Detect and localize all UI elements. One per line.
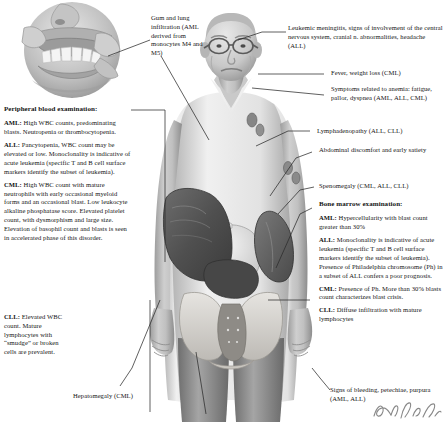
callout-hepatomegaly-text: Hepatomegaly (CML) <box>73 392 163 401</box>
callout-gum-lung-text: Gum and lung infiltration (AML derived f… <box>151 14 213 58</box>
artist-signature <box>371 400 443 422</box>
marrow-cll-text: Diffuse infiltration with mature lymphoc… <box>319 306 422 322</box>
callout-splenomegaly: Spenomegaly (CML, ALL, CLL) <box>319 182 445 191</box>
peripheral-blood-panel: Peripheral blood examination: AML: High … <box>4 105 131 243</box>
callout-abdominal-text: Abdominal discomfort and early satiety <box>319 146 439 155</box>
peripheral-all-text: Pancytopenia, WBC count may be elevated … <box>4 141 130 174</box>
central-figure-illustration <box>148 8 314 423</box>
callout-splenomegaly-text: Spenomegaly (CML, ALL, CLL) <box>319 182 445 191</box>
callout-lymphadenopathy-text: Lymphadenopathy (ALL, CLL) <box>317 127 443 136</box>
callout-gum-lung: Gum and lung infiltration (AML derived f… <box>151 14 213 58</box>
peripheral-blood-entry-cll: CLL: Elevated WBC count. Mature lymphocy… <box>4 313 66 357</box>
callout-meningitis: Leukemic meningitis, signs of involvemen… <box>288 24 444 50</box>
callout-hepatomegaly: Hepatomegaly (CML) <box>73 392 163 401</box>
peripheral-blood-heading: Peripheral blood examination: <box>4 105 131 114</box>
callout-meningitis-text: Leukemic meningitis, signs of involvemen… <box>288 24 444 50</box>
marrow-aml-label: AML: <box>319 214 337 221</box>
peripheral-blood-entry-cml: CML: High WBC count with mature neutroph… <box>4 181 131 243</box>
callout-anemia: Symptoms related to anemia: fatigue, pal… <box>331 85 441 103</box>
bone-marrow-heading: Bone marrow examination: <box>319 200 444 209</box>
leukemia-manifestations-figure: Gum and lung infiltration (AML derived f… <box>0 0 447 423</box>
peripheral-aml-label: AML: <box>4 119 22 126</box>
callout-abdominal-discomfort: Abdominal discomfort and early satiety <box>319 146 439 155</box>
peripheral-cml-label: CML: <box>4 181 22 188</box>
marrow-cml-label: CML: <box>319 285 337 292</box>
bone-marrow-entry-cll: CLL: Diffuse infiltration with mature ly… <box>319 306 444 324</box>
marrow-cll-label: CLL: <box>319 306 335 313</box>
callout-anemia-text: Symptoms related to anemia: fatigue, pal… <box>331 85 441 103</box>
peripheral-blood-entry-cll-block: CLL: Elevated WBC count. Mature lymphocy… <box>4 313 66 357</box>
callout-lymphadenopathy: Lymphadenopathy (ALL, CLL) <box>317 127 443 136</box>
callout-fever-text: Fever, weight loss (CML) <box>331 69 443 78</box>
bone-marrow-panel: Bone marrow examination: AML: Hypercellu… <box>319 200 444 324</box>
bone-marrow-entry-all: ALL: Monoclonality is indicative of acut… <box>319 236 444 280</box>
marrow-all-text: Monoclonality is indicative of acute leu… <box>319 236 443 278</box>
peripheral-cll-label: CLL: <box>4 313 20 320</box>
leader-bleeding <box>312 368 330 390</box>
marrow-all-label: ALL: <box>319 236 335 243</box>
peripheral-all-label: ALL: <box>4 141 20 148</box>
peripheral-blood-entry-aml: AML: High WBC counts, predominating blas… <box>4 119 131 137</box>
bone-marrow-entry-cml: CML: Presence of Ph. More than 30% blast… <box>319 285 444 303</box>
marrow-cml-text: Presence of Ph. More than 30% blasts cou… <box>319 285 441 301</box>
gum-infiltration-inset-illustration <box>16 2 128 98</box>
peripheral-blood-entry-all: ALL: Pancytopenia, WBC count may be elev… <box>4 141 131 176</box>
callout-fever: Fever, weight loss (CML) <box>331 69 443 78</box>
peripheral-cml-text: High WBC count with mature neutrophils w… <box>4 181 128 241</box>
bone-marrow-entry-aml: AML: Hypercellularity with blast count g… <box>319 214 444 232</box>
